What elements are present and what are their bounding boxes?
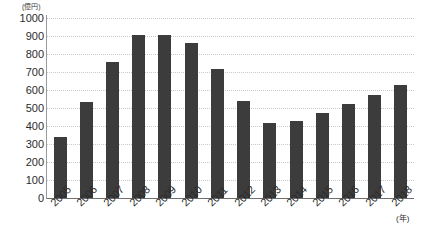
bar	[394, 85, 407, 198]
bar	[158, 35, 171, 198]
bar	[106, 62, 119, 198]
bar	[132, 35, 145, 198]
y-tick-label: 0	[0, 193, 44, 204]
bar	[185, 43, 198, 198]
y-axis-unit-label: (億円)	[22, 1, 41, 11]
x-axis-tick-labels: 2005200620072008200920102011201220132014…	[47, 200, 414, 238]
y-tick-label: 900	[0, 31, 44, 42]
y-tick-label: 800	[0, 49, 44, 60]
y-tick-label: 300	[0, 139, 44, 150]
y-tick-label: 400	[0, 121, 44, 132]
x-axis-unit-label: (年)	[396, 212, 409, 223]
y-tick-label: 100	[0, 175, 44, 186]
y-axis-tick-labels: 10009008007006005004003002001000	[0, 18, 44, 198]
bar	[211, 69, 224, 198]
y-tick-label: 200	[0, 157, 44, 168]
y-tick-label: 1000	[0, 13, 44, 24]
y-tick-label: 600	[0, 85, 44, 96]
bar-chart: (億円) 10009008007006005004003002001000 20…	[0, 0, 421, 238]
y-tick-label: 500	[0, 103, 44, 114]
y-tick-label: 700	[0, 67, 44, 78]
bar-series	[47, 18, 414, 198]
